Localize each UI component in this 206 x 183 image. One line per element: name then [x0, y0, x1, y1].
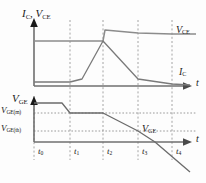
top-plot [30, 18, 196, 90]
time-tick-t1: t1 [74, 147, 79, 157]
bottom-y-axis-label-sub: GE [19, 98, 28, 105]
top-x-axis-arrow [183, 82, 192, 90]
top-y-axis-label-sub2: CE [42, 13, 50, 20]
y-tick-vge-th: VGE(th) [1, 124, 21, 134]
curve-label-vce-sub: CE [182, 28, 190, 35]
time-tick-t2-sub: 2 [110, 150, 113, 156]
bottom-y-axis-label: VGE [12, 93, 27, 105]
y-tick-vge-m-sub: GE(m) [7, 109, 22, 115]
time-tick-t1-sub: 1 [77, 150, 80, 156]
curve-label-vge: VGE [142, 124, 156, 135]
time-tick-t0-sub: 0 [41, 150, 44, 156]
time-tick-t4-sub: 4 [179, 150, 182, 156]
bottom-x-axis-label: t [196, 134, 199, 144]
time-tick-t3: t3 [142, 147, 147, 157]
time-tick-t4: t4 [176, 147, 181, 157]
time-tick-t0: t0 [38, 147, 43, 157]
top-y-axis-label: IC, VCE [22, 8, 51, 20]
figure-root: IC, VCE VCE IC t VGE VGE(m) VGE(th) VGE … [0, 0, 206, 183]
top-x-axis-label: t [196, 78, 199, 88]
curve-label-ic-sub: C [182, 70, 186, 77]
time-tick-t2: t2 [107, 147, 112, 157]
y-tick-vge-m: VGE(m) [1, 106, 21, 116]
curve-label-ic: IC [179, 67, 186, 78]
curve-label-vce: VCE [176, 25, 190, 36]
time-tick-t3-sub: 3 [145, 150, 148, 156]
bottom-plot [30, 96, 196, 172]
curve-label-vge-sub: GE [148, 127, 156, 134]
y-tick-vge-th-sub: GE(th) [7, 127, 21, 133]
curve-ic [34, 41, 190, 85]
bottom-x-axis-arrow [183, 138, 192, 146]
bottom-y-axis-label-var: V [12, 92, 19, 104]
curve-vce [34, 30, 196, 41]
